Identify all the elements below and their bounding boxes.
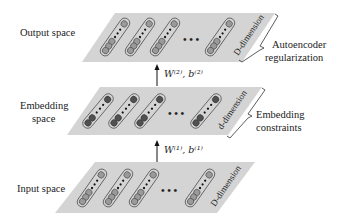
- output-bracket-label-1: Autoencoder: [272, 39, 327, 50]
- autoencoder-diagram: • • • D-dimension Output space Autoencod…: [0, 0, 344, 223]
- output-bracket-label-2: regularization: [265, 52, 324, 63]
- embedding-layer: • • • d-dimension Embedding space Embedd…: [20, 87, 305, 138]
- input-layer: • • • D-dimension Input space: [17, 162, 255, 213]
- embedding-space-label-2: space: [32, 113, 56, 124]
- input-ellipsis: • • •: [161, 185, 178, 196]
- arrow-2-label: W⁽²⁾, b⁽²⁾: [164, 68, 204, 79]
- embedding-bracket-label-1: Embedding: [256, 109, 305, 120]
- arrow-1-label: W⁽¹⁾, b⁽¹⁾: [164, 144, 204, 155]
- embedding-space-label-1: Embedding: [20, 100, 69, 111]
- output-layer: • • • D-dimension Output space Autoencod…: [20, 12, 327, 63]
- embedding-ellipsis: • • •: [168, 108, 185, 119]
- arrow-input-to-embedding: W⁽¹⁾, b⁽¹⁾: [155, 140, 204, 162]
- arrow-embedding-to-output: W⁽²⁾, b⁽²⁾: [155, 64, 204, 86]
- embedding-bracket-label-2: constraints: [256, 122, 302, 133]
- input-space-label: Input space: [17, 183, 65, 194]
- output-space-label: Output space: [20, 27, 75, 38]
- output-ellipsis: • • •: [183, 34, 200, 45]
